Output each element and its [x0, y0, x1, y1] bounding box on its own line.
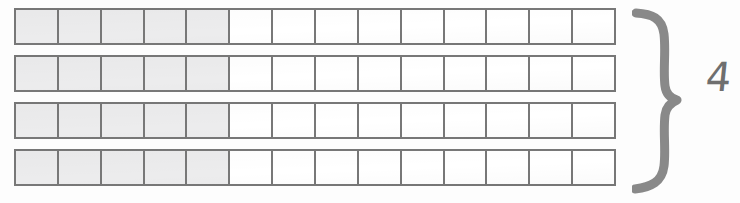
- bar-cell-empty: [528, 102, 573, 139]
- bar-cell-empty: [357, 8, 402, 45]
- bar-cell-empty: [443, 55, 488, 92]
- bar-cell-empty: [357, 102, 402, 139]
- bar-cell-shaded: [57, 102, 102, 139]
- bar-cell-empty: [400, 8, 445, 45]
- bar-model-row-4: [14, 149, 616, 186]
- bar-cell-empty: [357, 149, 402, 186]
- bar-cell-shaded: [185, 8, 230, 45]
- right-curly-brace-icon: [632, 8, 692, 194]
- bar-cell-shaded: [57, 8, 102, 45]
- bar-cell-shaded: [14, 55, 59, 92]
- bar-cell-empty: [485, 55, 530, 92]
- bar-cell-shaded: [57, 149, 102, 186]
- bar-cell-empty: [571, 149, 616, 186]
- bar-cell-empty: [228, 8, 273, 45]
- bar-cell-empty: [443, 102, 488, 139]
- group-annotation: 4: [632, 0, 740, 203]
- bar-cell-shaded: [143, 149, 188, 186]
- bar-cell-empty: [528, 8, 573, 45]
- bar-cell-empty: [400, 149, 445, 186]
- bar-cell-shaded: [57, 55, 102, 92]
- bar-cell-empty: [357, 55, 402, 92]
- bar-cell-shaded: [100, 8, 145, 45]
- bar-cell-empty: [485, 102, 530, 139]
- bar-cell-empty: [271, 149, 316, 186]
- bar-cell-shaded: [14, 102, 59, 139]
- bar-cell-empty: [571, 102, 616, 139]
- bar-cell-empty: [528, 55, 573, 92]
- bar-cell-empty: [314, 55, 359, 92]
- bar-cell-empty: [485, 149, 530, 186]
- group-count-label: 4: [704, 57, 733, 97]
- bar-cell-shaded: [14, 8, 59, 45]
- bar-cell-empty: [400, 102, 445, 139]
- bar-model-row-3: [14, 102, 616, 139]
- bar-cell-shaded: [100, 102, 145, 139]
- bar-cell-empty: [443, 149, 488, 186]
- bar-cell-shaded: [100, 149, 145, 186]
- bar-model-row-2: [14, 55, 616, 92]
- bar-cell-empty: [528, 149, 573, 186]
- bar-cell-empty: [228, 102, 273, 139]
- bar-cell-empty: [571, 8, 616, 45]
- bar-cell-empty: [443, 8, 488, 45]
- bar-model-row-1: [14, 8, 616, 45]
- bar-model-diagram: [14, 8, 616, 193]
- bar-cell-empty: [314, 102, 359, 139]
- bar-cell-shaded: [143, 55, 188, 92]
- bar-cell-empty: [271, 102, 316, 139]
- bar-cell-shaded: [185, 102, 230, 139]
- bar-cell-empty: [400, 55, 445, 92]
- bar-cell-shaded: [143, 8, 188, 45]
- bar-cell-empty: [485, 8, 530, 45]
- bar-cell-empty: [314, 149, 359, 186]
- bar-cell-shaded: [100, 55, 145, 92]
- bar-cell-empty: [271, 8, 316, 45]
- bar-cell-empty: [228, 55, 273, 92]
- bar-cell-empty: [271, 55, 316, 92]
- bar-cell-empty: [228, 149, 273, 186]
- bar-cell-shaded: [185, 149, 230, 186]
- bar-cell-shaded: [185, 55, 230, 92]
- bar-cell-empty: [571, 55, 616, 92]
- bar-cell-shaded: [143, 102, 188, 139]
- bar-cell-shaded: [14, 149, 59, 186]
- bar-cell-empty: [314, 8, 359, 45]
